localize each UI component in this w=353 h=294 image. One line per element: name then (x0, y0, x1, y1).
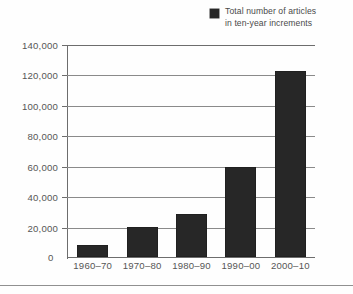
y-tick-label-80000: 80,000 (27, 131, 58, 142)
bar-1990-00[interactable] (225, 167, 256, 257)
tick-mark-20000 (62, 228, 67, 229)
bar-1960-70[interactable] (77, 245, 108, 257)
y-tick-label-0: 0 (48, 252, 53, 263)
tick-mark-40000 (62, 197, 67, 198)
tick-mark-60000 (62, 167, 67, 168)
bar-1980-90[interactable] (176, 214, 207, 257)
y-tick-label-140000: 140,000 (22, 40, 58, 51)
bar-2000-10[interactable] (275, 71, 306, 257)
bar-slot-1960-70 (68, 45, 117, 257)
x-tick-label-1970-80: 1970–80 (117, 260, 166, 271)
chart-legend: Total number of articles in ten-year inc… (210, 6, 316, 29)
tick-mark-120000 (62, 75, 67, 76)
bar-1970-80[interactable] (127, 227, 158, 257)
x-tick-label-2000-10: 2000–10 (266, 260, 315, 271)
x-tick-label-1980-90: 1980–90 (167, 260, 216, 271)
x-tick-label-1960-70: 1960–70 (68, 260, 117, 271)
tick-mark-80000 (62, 136, 67, 137)
bar-series (68, 45, 315, 257)
bar-slot-1980-90 (167, 45, 216, 257)
legend-label: Total number of articles in ten-year inc… (225, 6, 316, 29)
y-tick-label-120000: 120,000 (22, 70, 58, 81)
x-axis-line (67, 257, 315, 258)
bar-chart-figure: Total number of articles in ten-year inc… (0, 0, 353, 294)
y-tick-label-20000: 20,000 (27, 222, 58, 233)
bar-slot-1970-80 (117, 45, 166, 257)
x-tick-label-1990-00: 1990–00 (216, 260, 265, 271)
tick-mark-140000 (62, 45, 67, 46)
legend-color-swatch-icon (210, 9, 219, 18)
bar-slot-2000-10 (266, 45, 315, 257)
y-tick-label-40000: 40,000 (27, 192, 58, 203)
tick-mark-100000 (62, 106, 67, 107)
plot-area: 140,000 120,000 100,000 80,000 60,000 40… (67, 45, 315, 258)
bar-slot-1990-00 (216, 45, 265, 257)
page-divider-rule (0, 285, 353, 286)
x-axis-labels: 1960–70 1970–80 1980–90 1990–00 2000–10 (68, 260, 315, 271)
y-tick-label-100000: 100,000 (22, 100, 58, 111)
y-tick-label-60000: 60,000 (27, 161, 58, 172)
